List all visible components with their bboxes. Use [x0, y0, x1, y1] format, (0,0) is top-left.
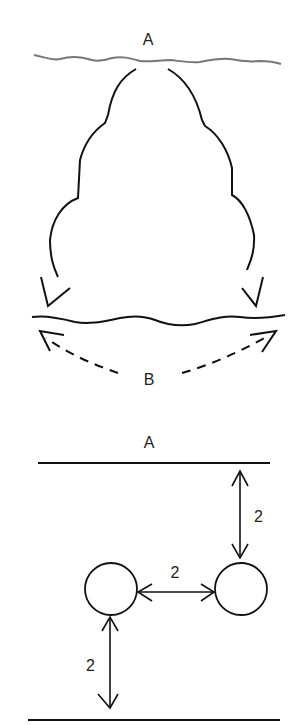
arrow-head-right-down	[242, 277, 263, 306]
surface-a-wavy	[34, 55, 281, 64]
diagram: A B A 2 2 2	[0, 0, 296, 725]
dashed-arrow-right	[182, 335, 270, 373]
bubble-right-outline	[168, 69, 254, 270]
arrow-head-right-outward	[250, 331, 276, 352]
arrow-head-left-down	[41, 277, 70, 306]
bottom-figure: A 2 2 2	[28, 434, 280, 720]
label-a-bottom: A	[144, 434, 155, 451]
label-b: B	[144, 371, 155, 388]
label-a-top: A	[143, 31, 154, 48]
surface-b-wavy	[32, 315, 285, 325]
dashed-arrow-left	[46, 338, 118, 373]
arrow-head-bottom-down	[98, 694, 118, 708]
top-figure: A B	[32, 31, 285, 388]
bubble-left-outline	[50, 69, 136, 277]
particle-right	[215, 563, 267, 615]
arrow-head-left-outward	[40, 331, 64, 351]
particle-left	[85, 563, 137, 615]
label-distance-bottom: 2	[86, 657, 95, 674]
label-distance-middle: 2	[171, 564, 180, 581]
label-distance-top: 2	[254, 508, 263, 525]
